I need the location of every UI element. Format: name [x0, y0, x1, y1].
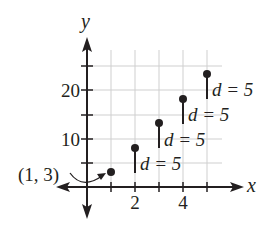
- annotation-d-1: d = 5: [140, 153, 181, 174]
- data-point: [131, 144, 139, 152]
- annotation-d-3: d = 5: [188, 104, 229, 125]
- annotation-d-4: d = 5: [212, 79, 253, 100]
- y-axis-label: y: [79, 10, 90, 33]
- tick-label-y-20: 20: [61, 80, 80, 101]
- chart-canvas: 2 4 10 20 x y d = 5 d = 5 d = 5 d = 5 (1…: [0, 0, 276, 229]
- data-point: [155, 119, 163, 127]
- annotation-d-2: d = 5: [164, 129, 205, 150]
- data-point: [203, 70, 211, 78]
- tick-label-x-2: 2: [130, 192, 140, 213]
- x-axis-label: x: [246, 174, 256, 196]
- data-point: [179, 95, 187, 103]
- data-point: [107, 168, 115, 176]
- point-label-1-3: (1, 3): [18, 164, 59, 186]
- tick-label-x-4: 4: [178, 192, 188, 213]
- tick-label-y-10: 10: [61, 129, 80, 150]
